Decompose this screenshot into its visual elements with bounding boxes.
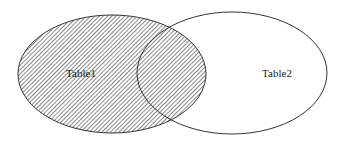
set-table1-label: Table1	[66, 67, 96, 79]
set-table1-ellipse	[18, 15, 206, 133]
venn-diagram: Table1 Table2	[0, 0, 342, 145]
venn-svg: Table1 Table2	[0, 0, 342, 145]
set-table2-label: Table2	[262, 67, 292, 79]
